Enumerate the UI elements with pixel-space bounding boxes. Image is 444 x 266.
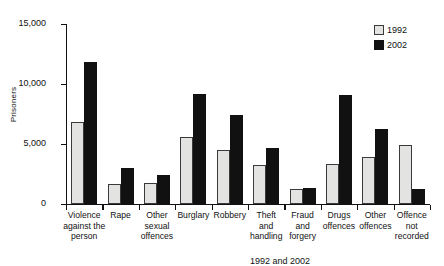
bar-group xyxy=(326,24,352,204)
bar-1992 xyxy=(399,145,412,204)
bar-group xyxy=(71,24,97,204)
bar-2002 xyxy=(266,148,279,204)
bar-2002 xyxy=(375,129,388,204)
bar-1992 xyxy=(362,157,375,204)
x-category-label-line: recorded xyxy=(387,231,437,242)
x-category-label-line: not xyxy=(387,221,437,232)
y-tick-10000 xyxy=(61,84,66,85)
bar-1992 xyxy=(290,189,303,204)
legend-swatch-1992-icon xyxy=(374,25,384,35)
bar-1992 xyxy=(253,165,266,203)
x-category-label-line: forgery xyxy=(277,231,327,242)
y-tick-label-15000: 15,000 xyxy=(0,18,46,28)
bar-chart: Prisoners 05,00010,00015,000 Violenceaga… xyxy=(0,0,444,266)
bar-2002 xyxy=(121,168,134,203)
x-category-label-line: Offence xyxy=(387,210,437,221)
y-tick-15000 xyxy=(61,24,66,25)
bar-group xyxy=(108,24,134,204)
bar-2002 xyxy=(412,189,425,203)
y-tick-5000 xyxy=(61,144,66,145)
y-axis-line xyxy=(66,24,67,205)
bar-2002 xyxy=(84,62,97,203)
legend-label-2002: 2002 xyxy=(387,40,407,50)
bar-2002 xyxy=(339,95,352,204)
y-tick-label-10000: 10,000 xyxy=(0,78,46,88)
bar-1992 xyxy=(144,183,157,203)
bar-group xyxy=(217,24,243,204)
bar-2002 xyxy=(193,94,206,204)
legend-item-1992: 1992 xyxy=(374,25,407,35)
x-category-label-line: person xyxy=(59,231,109,242)
bar-group xyxy=(290,24,316,204)
x-category-label: Offencenotrecorded xyxy=(387,210,437,242)
bar-1992 xyxy=(217,150,230,204)
bar-2002 xyxy=(157,175,170,204)
bar-group xyxy=(180,24,206,204)
bar-group xyxy=(144,24,170,204)
bar-1992 xyxy=(108,184,121,204)
legend-item-2002: 2002 xyxy=(374,40,407,50)
x-category-label-line: against the xyxy=(59,221,109,232)
y-tick-label-0: 0 xyxy=(0,198,46,208)
bar-1992 xyxy=(71,122,84,203)
bar-group xyxy=(253,24,279,204)
legend-label-1992: 1992 xyxy=(387,25,407,35)
bar-1992 xyxy=(180,137,193,204)
y-tick-label-5000: 5,000 xyxy=(0,138,46,148)
legend-swatch-2002-icon xyxy=(374,40,384,50)
x-category-label-line: offences xyxy=(132,231,182,242)
legend: 1992 2002 xyxy=(374,25,407,55)
bar-2002 xyxy=(303,188,316,204)
x-category-label-line: sexual xyxy=(132,221,182,232)
footer-caption: 1992 and 2002 xyxy=(250,256,310,266)
bar-2002 xyxy=(230,115,243,204)
bar-1992 xyxy=(326,164,339,204)
